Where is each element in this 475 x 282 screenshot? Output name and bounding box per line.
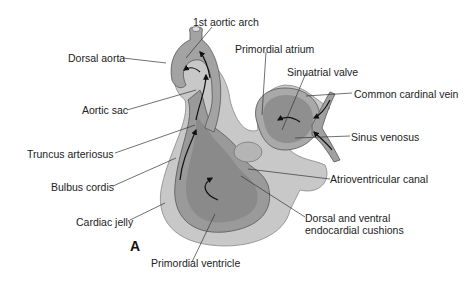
label-endocardial-cushions: Dorsal and ventral endocardial cushions bbox=[305, 212, 440, 236]
label-sinuatrial-valve: Sinuatrial valve bbox=[287, 66, 358, 78]
label-common-cardinal-vein: Common cardinal vein bbox=[354, 88, 458, 100]
label-first-aortic-arch: 1st aortic arch bbox=[193, 16, 259, 28]
primordial-atrium bbox=[256, 88, 320, 150]
label-primordial-ventricle: Primordial ventricle bbox=[151, 257, 240, 269]
label-sinus-venosus: Sinus venosus bbox=[351, 131, 419, 143]
label-truncus-arteriosus: Truncus arteriosus bbox=[27, 148, 114, 160]
av-canal bbox=[234, 142, 262, 162]
label-cardiac-jelly: Cardiac jelly bbox=[76, 216, 133, 228]
label-atrioventricular-canal: Atrioventricular canal bbox=[330, 173, 428, 185]
label-dorsal-aorta: Dorsal aorta bbox=[68, 52, 125, 64]
label-bulbus-cordis: Bulbus cordis bbox=[51, 181, 114, 193]
label-aortic-sac: Aortic sac bbox=[82, 104, 128, 116]
panel-letter: A bbox=[130, 238, 140, 254]
label-primordial-atrium: Primordial atrium bbox=[235, 43, 314, 55]
